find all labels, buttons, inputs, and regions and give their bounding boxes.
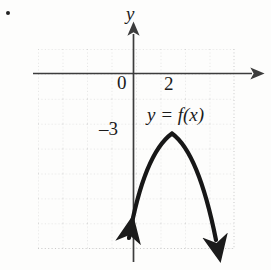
parabola-graph-figure: y 0 2 –3 y = f(x)	[0, 0, 271, 270]
function-label: y = f(x)	[147, 105, 204, 124]
grid-lines	[38, 49, 234, 249]
origin-label: 0	[117, 73, 127, 92]
y-axis-label: y	[126, 4, 134, 23]
y-tick-label-neg3: –3	[99, 119, 118, 138]
x-tick-label-2: 2	[164, 74, 174, 93]
coordinate-plane-svg	[0, 0, 271, 270]
